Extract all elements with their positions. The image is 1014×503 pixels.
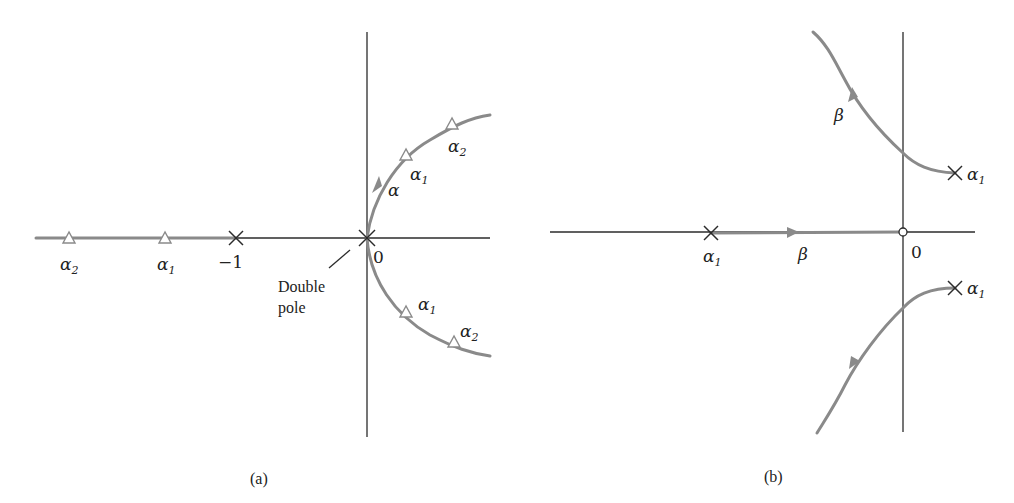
panel-b-label-alpha1-lower: α1 xyxy=(967,278,985,301)
panel-b: α1 β 0 β α1 α1 (b) xyxy=(550,32,985,486)
panel-b-upper-branch xyxy=(813,32,955,173)
panel-b-label-beta-real: β xyxy=(797,244,808,264)
panel-a-double-pole-label-line2: pole xyxy=(278,299,306,317)
root-locus-figure: α2 α1 −1 0 α α1 α2 α1 α2 Double pole (a) xyxy=(0,0,1014,503)
panel-a-caption: (a) xyxy=(250,470,268,488)
panel-b-label-alpha1-real: α1 xyxy=(703,246,721,269)
panel-a-label-alpha2-real: α2 xyxy=(60,254,78,277)
panel-a-triangle-alpha2-upper-icon xyxy=(446,118,458,129)
panel-a: α2 α1 −1 0 α α1 α2 α1 α2 Double pole (a) xyxy=(36,32,490,488)
panel-a-triangle-alpha2-lower-icon xyxy=(448,336,460,347)
panel-a-label-alpha-param: α xyxy=(388,180,400,200)
panel-b-label-alpha1-upper: α1 xyxy=(967,164,985,187)
panel-a-label-alpha2-upper: α2 xyxy=(448,136,466,159)
panel-b-real-arrow-icon xyxy=(787,227,799,238)
panel-a-label-origin: 0 xyxy=(373,247,384,267)
panel-a-label-minus-one: −1 xyxy=(218,252,243,272)
panel-a-double-pole-label-line1: Double xyxy=(278,278,325,295)
panel-b-lower-branch xyxy=(817,288,955,433)
panel-a-double-pole-pointer xyxy=(329,250,350,268)
panel-b-label-beta-upper: β xyxy=(833,105,844,125)
panel-b-real-locus xyxy=(711,232,903,233)
panel-a-label-alpha1-upper: α1 xyxy=(410,164,428,187)
panel-b-zero-icon xyxy=(899,228,907,236)
panel-a-direction-arrow-icon xyxy=(372,176,382,193)
panel-a-label-alpha1-real: α1 xyxy=(157,254,175,277)
panel-b-label-origin: 0 xyxy=(911,242,922,262)
panel-b-caption: (b) xyxy=(764,468,783,486)
panel-a-label-alpha2-lower: α2 xyxy=(460,321,478,344)
panel-a-upper-branch xyxy=(367,115,490,238)
panel-a-label-alpha1-lower: α1 xyxy=(418,294,436,317)
